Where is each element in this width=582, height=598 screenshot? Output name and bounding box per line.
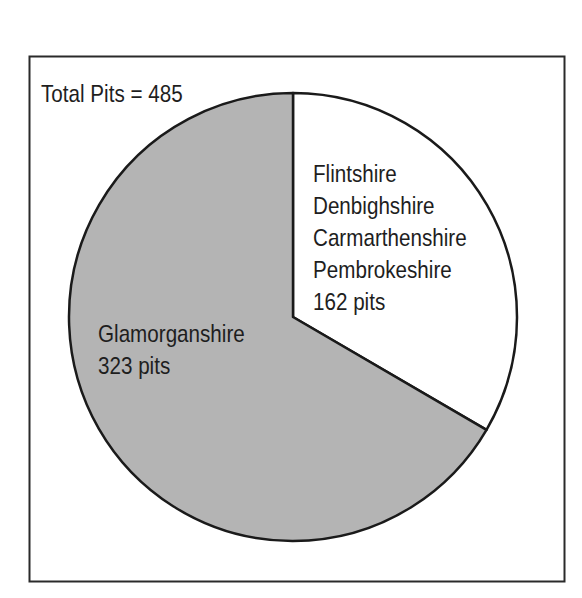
- slice-label-line: Pembrokeshire: [313, 257, 452, 284]
- pie-chart: Total Pits = 485 FlintshireDenbighshireC…: [0, 0, 582, 598]
- slice-label-line: 323 pits: [98, 353, 170, 380]
- slice-label-line: 162 pits: [313, 289, 385, 316]
- slice-label-line: Denbighshire: [313, 193, 435, 220]
- slice-label-line: Flintshire: [313, 161, 397, 188]
- slice-label-line: Carmarthenshire: [313, 225, 467, 252]
- slice-label-line: Glamorganshire: [98, 321, 245, 348]
- total-annotation: Total Pits = 485: [41, 81, 183, 108]
